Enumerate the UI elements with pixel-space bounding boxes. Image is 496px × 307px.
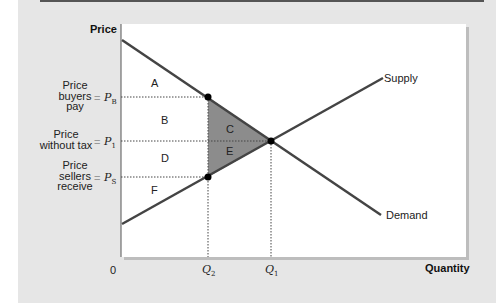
price-buyers-pay-label: Price buyers pay <box>52 80 98 112</box>
region-f-label: F <box>151 185 158 196</box>
y-axis-title: Price <box>90 23 117 35</box>
supply-label: Supply <box>384 73 418 84</box>
label-line: Price <box>52 80 98 91</box>
label-line: Price <box>52 160 98 171</box>
q1-tick-label: Q1 <box>265 263 279 278</box>
region-e-label: E <box>226 146 233 157</box>
sellers-price-point <box>205 174 212 181</box>
region-c-label: C <box>226 124 234 135</box>
buyers-price-point <box>205 94 212 101</box>
p1-symbol: P1 <box>104 135 116 150</box>
equilibrium-point <box>268 138 275 145</box>
region-d-label: D <box>161 153 169 164</box>
q2-tick-label: Q2 <box>202 263 216 278</box>
equals-sign: = <box>94 92 100 104</box>
price-without-tax-label: Price without tax <box>36 129 96 150</box>
region-a-label: A <box>151 78 158 89</box>
region-b-label: B <box>161 115 168 126</box>
pb-symbol: PB <box>104 91 117 106</box>
label-line: receive <box>52 181 98 192</box>
label-line: without tax <box>36 140 96 151</box>
label-line: Price <box>36 129 96 140</box>
demand-label: Demand <box>386 210 428 221</box>
origin-label: 0 <box>110 265 116 276</box>
price-sellers-receive-label: Price sellers receive <box>52 160 98 192</box>
label-line: pay <box>52 101 98 112</box>
equals-sign: = <box>94 136 100 148</box>
x-axis-title: Quantity <box>425 262 470 274</box>
chart-canvas <box>0 0 496 307</box>
equals-sign: = <box>94 172 100 184</box>
ps-symbol: PS <box>104 171 116 186</box>
